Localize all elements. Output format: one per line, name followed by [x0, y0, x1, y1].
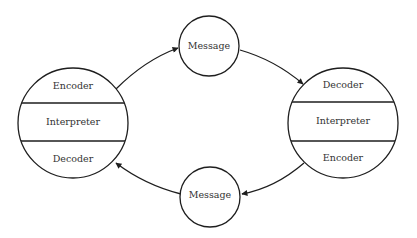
- communication-diagram: Encoder Interpreter Decoder Decoder Inte…: [0, 0, 417, 238]
- top-message-label: Message: [188, 40, 231, 51]
- arrow-bottom-message-to-left: [116, 163, 181, 194]
- arrow-left-to-top-message: [116, 48, 178, 89]
- bottom-message-label: Message: [189, 189, 232, 200]
- right-interpreter-label: Interpreter: [316, 115, 371, 126]
- arrow-right-to-bottom-message: [242, 163, 304, 194]
- left-interpreter-label: Interpreter: [46, 116, 101, 127]
- left-encoder-label: Encoder: [53, 80, 94, 91]
- bottom-message-node: Message: [180, 167, 240, 227]
- arrow-top-message-to-right: [240, 50, 303, 84]
- right-party-node: Decoder Interpreter Encoder: [280, 68, 410, 178]
- right-encoder-label: Encoder: [323, 152, 364, 163]
- right-decoder-label: Decoder: [323, 79, 364, 90]
- top-message-node: Message: [179, 16, 239, 76]
- left-decoder-label: Decoder: [53, 153, 94, 164]
